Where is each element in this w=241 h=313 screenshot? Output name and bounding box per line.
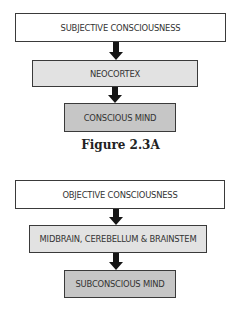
midbrain-cerebellum-brainstem-box: MIDBRAIN, CEREBELLUM & BRAINSTEM <box>29 225 207 253</box>
subconscious-mind-box: SUBCONSCIOUS MIND <box>64 270 176 298</box>
down-arrow-icon <box>109 253 123 270</box>
box-label: CONSCIOUS MIND <box>84 113 157 123</box>
neocortex-box: NEOCORTEX <box>32 60 198 87</box>
box-label: SUBCONSCIOUS MIND <box>75 279 164 289</box>
figure-caption: Figure 2.3A <box>0 138 241 152</box>
box-label: OBJECTIVE CONSCIOUSNESS <box>62 190 177 200</box>
down-arrow-icon <box>109 209 123 225</box>
box-label: MIDBRAIN, CEREBELLUM & BRAINSTEM <box>40 234 197 244</box>
subjective-consciousness-box: SUBJECTIVE CONSCIOUSNESS <box>15 13 226 42</box>
down-arrow-icon <box>109 42 123 60</box>
objective-consciousness-box: OBJECTIVE CONSCIOUSNESS <box>15 180 225 209</box>
down-arrow-icon <box>108 87 122 103</box>
box-label: SUBJECTIVE CONSCIOUSNESS <box>61 23 181 33</box>
conscious-mind-box: CONSCIOUS MIND <box>64 103 176 132</box>
box-label: NEOCORTEX <box>90 69 140 79</box>
